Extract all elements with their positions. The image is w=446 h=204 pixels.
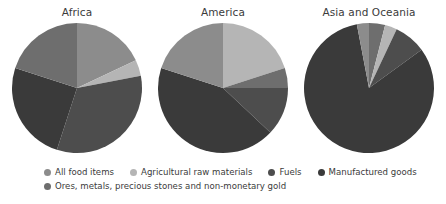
panel-title-america: America: [201, 6, 245, 19]
legend-swatch-all-food-items: [44, 169, 51, 176]
pie-wrap-america: [157, 22, 289, 154]
legend-swatch-fuels: [268, 169, 275, 176]
panel-title-asia-oceania: Asia and Oceania: [323, 6, 416, 19]
pie-slices-america: [158, 23, 288, 153]
legend-swatch-ores-metals: [44, 183, 51, 190]
legend-item-all-food-items: All food items: [44, 167, 114, 178]
pie-chart-america: [157, 22, 289, 154]
legend-swatch-manufactured-goods: [318, 169, 325, 176]
pie-chart-africa: [11, 22, 143, 154]
pie-chart-figure: Africa America Asia and Oceania: [0, 0, 446, 204]
legend-item-manufactured-goods: Manufactured goods: [318, 167, 417, 178]
legend-label-manufactured-goods: Manufactured goods: [329, 167, 417, 178]
legend-item-agricultural-raw-materials: Agricultural raw materials: [130, 167, 252, 178]
legend-item-ores-metals: Ores, metals, precious stones and non-mo…: [44, 181, 286, 192]
pie-panel-africa: Africa: [6, 0, 148, 154]
legend-label-ores-metals: Ores, metals, precious stones and non-mo…: [55, 181, 286, 192]
legend-item-fuels: Fuels: [268, 167, 301, 178]
legend-label-all-food-items: All food items: [55, 167, 114, 178]
pie-wrap-asia-oceania: [303, 22, 435, 154]
legend-row-2: Ores, metals, precious stones and non-mo…: [44, 180, 446, 193]
chart-legend: All food items Agricultural raw material…: [0, 166, 446, 194]
legend-swatch-agricultural-raw-materials: [130, 169, 137, 176]
legend-row-1: All food items Agricultural raw material…: [44, 166, 446, 179]
pie-slices-africa: [12, 23, 142, 153]
legend-label-fuels: Fuels: [279, 167, 301, 178]
pie-panel-america: America: [152, 0, 294, 154]
pie-chart-asia-oceania: [303, 22, 435, 154]
pie-panels: Africa America Asia and Oceania: [0, 0, 446, 165]
panel-title-africa: Africa: [62, 6, 93, 19]
legend-label-agricultural-raw-materials: Agricultural raw materials: [141, 167, 252, 178]
pie-wrap-africa: [11, 22, 143, 154]
pie-panel-asia-oceania: Asia and Oceania: [298, 0, 440, 154]
pie-slices-asia-oceania: [304, 23, 434, 153]
